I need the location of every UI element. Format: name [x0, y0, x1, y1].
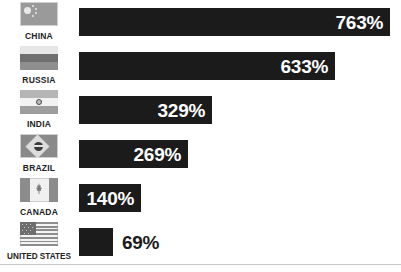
bar-chart: CHINA 763% RUSSIA 633% — [0, 0, 401, 272]
flag-russia-icon — [20, 46, 58, 70]
bar-india: 329% — [79, 96, 212, 124]
chart-row: CHINA 763% — [0, 0, 401, 44]
bar-united-states: 69% — [79, 228, 113, 256]
category-label: CHINA — [0, 31, 78, 41]
chart-row: BRAZIL 269% — [0, 132, 401, 176]
bar-russia: 633% — [79, 52, 335, 80]
category-label: BRAZIL — [0, 163, 78, 173]
category-cell-canada: CANADA — [0, 176, 78, 220]
flag-brazil-icon — [20, 134, 58, 158]
category-label: CANADA — [0, 207, 78, 217]
flag-china-wrap — [20, 2, 58, 26]
flag-united-states-icon — [20, 222, 58, 246]
bar-value-label: 269% — [134, 145, 188, 164]
category-label: RUSSIA — [0, 75, 78, 85]
flag-india-wrap — [20, 90, 58, 114]
bar-value-label: 140% — [87, 189, 141, 208]
category-label: UNITED STATES — [0, 252, 78, 261]
flag-russia-wrap — [20, 46, 58, 70]
chart-row: UNITED STATES 69% — [0, 220, 401, 264]
bar-brazil: 269% — [79, 140, 188, 168]
chart-row: CANADA 140% — [0, 176, 401, 220]
chart-row: RUSSIA 633% — [0, 44, 401, 88]
x-axis-line — [0, 264, 401, 265]
flag-india-icon — [20, 90, 58, 114]
bar-value-label: 329% — [158, 101, 212, 120]
flag-brazil-wrap — [20, 134, 58, 158]
category-label: INDIA — [0, 119, 78, 129]
bar-value-label: 633% — [281, 57, 335, 76]
category-cell-brazil: BRAZIL — [0, 132, 78, 176]
bar-canada: 140% — [79, 184, 141, 212]
flag-united-states-wrap — [20, 222, 58, 246]
category-cell-united-states: UNITED STATES — [0, 220, 78, 264]
bar-china: 763% — [79, 8, 390, 36]
bar-value-label: 763% — [336, 13, 390, 32]
category-cell-china: CHINA — [0, 0, 78, 44]
bar-value-label: 69% — [113, 233, 159, 252]
flag-canada-icon — [20, 178, 58, 202]
chart-row: INDIA 329% — [0, 88, 401, 132]
category-cell-india: INDIA — [0, 88, 78, 132]
category-cell-russia: RUSSIA — [0, 44, 78, 88]
flag-canada-wrap — [20, 178, 58, 202]
flag-china-icon — [20, 2, 58, 26]
